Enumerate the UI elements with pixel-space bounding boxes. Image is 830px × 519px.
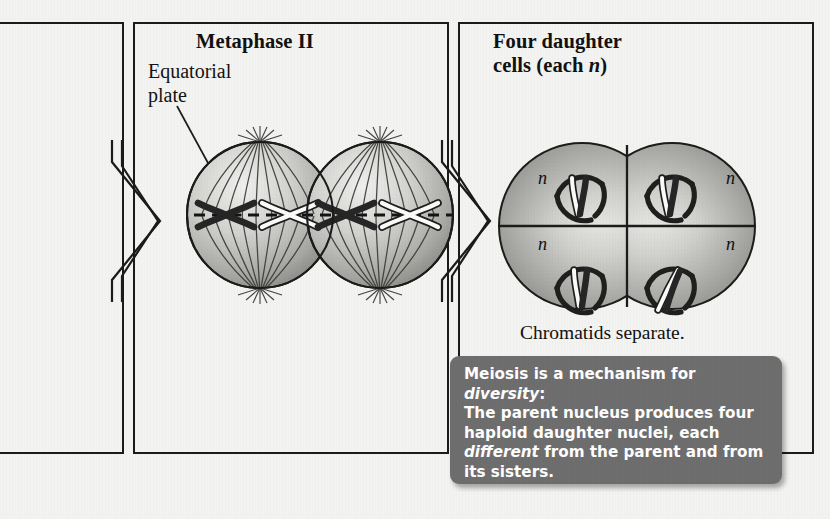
summary-callout: Meiosis is a mechanism for diversity: Th…: [450, 356, 782, 484]
daughter-cell-label-top-left: n: [538, 168, 547, 189]
metaphase-ii-cells: [186, 124, 454, 306]
daughter-cell-label-bottom-right: n: [726, 234, 735, 255]
figure-canvas: Metaphase II Equatorial plate: [0, 0, 830, 519]
callout-line-4-post: from the parent and from: [539, 443, 763, 461]
callout-line-3: haploid daughter nuclei, each: [464, 424, 768, 444]
callout-emphasis-different: different: [464, 443, 539, 461]
daughter-cell-label-top-right: n: [726, 168, 735, 189]
chromatids-separate-caption: Chromatids separate.: [520, 322, 685, 344]
callout-emphasis-diversity: diversity: [464, 385, 539, 403]
panel-title-daughter-line2: cells (each n): [493, 54, 607, 77]
callout-line-1: Meiosis is a mechanism for diversity:: [464, 365, 768, 404]
panel-title-daughter-line1: Four daughter: [493, 30, 622, 53]
ploidy-symbol: n: [589, 54, 601, 76]
callout-line-4: different from the parent and from: [464, 443, 768, 463]
panel-title-daughter-line2-text: cells (each: [493, 54, 589, 76]
callout-line-2: The parent nucleus produces four: [464, 404, 768, 424]
four-daughter-cells-group: [498, 134, 756, 318]
equatorial-plate-label-line1: Equatorial: [148, 60, 231, 82]
callout-line-1-post: :: [539, 385, 545, 403]
daughter-cell-label-bottom-left: n: [538, 234, 547, 255]
panel-title-metaphase-ii: Metaphase II: [196, 30, 314, 53]
callout-line-5: its sisters.: [464, 463, 768, 483]
callout-line-1-pre: Meiosis is a mechanism for: [464, 365, 696, 383]
